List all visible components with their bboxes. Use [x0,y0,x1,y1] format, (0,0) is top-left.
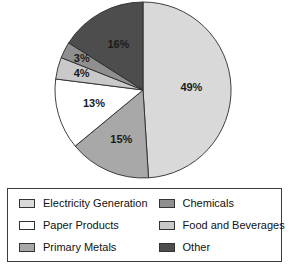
pie-slices-group [55,2,231,178]
legend-item-electricity-generation[interactable]: Electricity Generation [8,192,148,214]
legend-item-primary-metals[interactable]: Primary Metals [8,236,148,258]
pie-svg: 49%15%13%4%3%16% [0,0,291,186]
legend-item-label: Primary Metals [43,242,116,253]
pie-slice-label: 4% [74,67,90,79]
legend-item-chemicals[interactable]: Chemicals [148,192,285,214]
legend-item-label: Paper Products [43,220,119,231]
legend-item-label: Other [183,242,211,253]
legend-item-paper-products[interactable]: Paper Products [8,214,148,236]
pie-slice-label: 3% [74,52,90,64]
legend: Electricity Generation Chemicals Paper P… [7,188,282,262]
legend-item-label: Electricity Generation [43,198,148,209]
pie-chart-figure: 49%15%13%4%3%16% Electricity Generation … [0,0,291,269]
pie-plot-area: 49%15%13%4%3%16% [0,0,291,186]
pie-slice-label: 16% [107,38,129,50]
legend-swatch-icon [19,243,35,252]
legend-item-label: Chemicals [183,198,234,209]
pie-slice-label: 49% [180,81,202,93]
legend-swatch-icon [159,243,175,252]
legend-swatch-icon [159,199,175,208]
legend-grid: Electricity Generation Chemicals Paper P… [8,189,281,261]
legend-item-label: Food and Beverages [183,220,285,231]
legend-item-other[interactable]: Other [148,236,285,258]
pie-slice-label: 13% [83,97,105,109]
legend-swatch-icon [19,221,35,230]
pie-slice-label: 15% [110,133,132,145]
legend-item-food-and-beverages[interactable]: Food and Beverages [148,214,285,236]
legend-swatch-icon [19,199,35,208]
legend-swatch-icon [159,221,175,230]
